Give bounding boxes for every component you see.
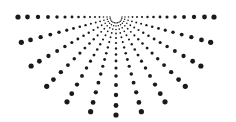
dot (99, 43, 101, 45)
dot (89, 60, 92, 63)
dot (115, 22, 116, 23)
dot (123, 30, 125, 32)
dot (55, 15, 58, 18)
dot (73, 57, 76, 60)
dot (165, 45, 168, 48)
dot (15, 14, 20, 19)
dot (115, 25, 116, 26)
dot (208, 40, 213, 45)
dot (137, 54, 140, 57)
dot (112, 28, 114, 30)
dot (92, 29, 94, 31)
dot (115, 33, 117, 35)
dot (113, 112, 118, 117)
dot (107, 46, 109, 48)
dot (190, 59, 195, 64)
dot (124, 52, 127, 55)
dot (114, 93, 118, 97)
dot (104, 22, 106, 24)
dot (94, 90, 98, 94)
dot (133, 34, 135, 36)
dot (126, 58, 129, 61)
dot (132, 81, 136, 85)
dot (93, 54, 96, 57)
dot (145, 24, 147, 26)
dot (82, 34, 85, 37)
dot (173, 15, 176, 18)
dot (114, 74, 117, 77)
dot (115, 47, 117, 49)
dot (139, 109, 144, 114)
dot (137, 29, 139, 31)
dot (115, 37, 117, 39)
dot (134, 90, 138, 94)
dot (88, 32, 90, 34)
dot (122, 41, 124, 43)
dot (131, 20, 133, 22)
dot (115, 53, 118, 56)
dot (106, 25, 108, 27)
dot (159, 16, 162, 19)
dot (169, 70, 173, 74)
dot (88, 109, 93, 114)
dot (101, 24, 103, 26)
dot (75, 82, 79, 86)
dot (124, 25, 126, 27)
dot (140, 60, 143, 63)
dot (44, 84, 49, 89)
dot (148, 74, 152, 78)
dot (107, 21, 108, 22)
dot (28, 38, 33, 43)
dot (59, 70, 63, 74)
dot (146, 47, 149, 50)
dot (110, 19, 111, 20)
dot (165, 15, 168, 18)
dot (147, 34, 150, 37)
dot (151, 25, 154, 28)
dot (122, 23, 123, 24)
dot (64, 99, 69, 104)
dot (78, 51, 81, 54)
dot (70, 41, 73, 44)
dot (63, 15, 66, 18)
dot (189, 35, 193, 39)
dot (105, 34, 107, 36)
dot (103, 58, 106, 61)
dot (29, 63, 34, 68)
dot (36, 15, 40, 19)
dot (97, 27, 99, 29)
dot-group (15, 14, 216, 117)
dot (83, 16, 85, 18)
dot (128, 65, 131, 68)
dot (84, 24, 86, 26)
dot (123, 21, 124, 22)
dot (96, 48, 99, 51)
dot (153, 82, 157, 86)
dot (121, 27, 123, 29)
dot (46, 15, 50, 19)
dot (94, 16, 96, 18)
dot (171, 31, 174, 34)
dot (76, 38, 79, 41)
dot (120, 21, 121, 22)
dot (103, 16, 105, 18)
dot (109, 23, 110, 24)
dot (51, 77, 56, 82)
dot (128, 38, 130, 40)
dot (137, 100, 142, 105)
dot (69, 91, 74, 96)
dot (118, 25, 119, 26)
dot (114, 66, 117, 69)
dot (199, 38, 204, 43)
dot (121, 19, 122, 20)
dot (89, 16, 91, 18)
dot (132, 16, 134, 18)
dot (111, 24, 112, 25)
dot (95, 21, 97, 23)
dot (112, 22, 113, 23)
dot (108, 41, 110, 43)
dot (57, 31, 60, 34)
dot (118, 28, 120, 30)
dot (110, 18, 111, 19)
dot (181, 54, 185, 58)
